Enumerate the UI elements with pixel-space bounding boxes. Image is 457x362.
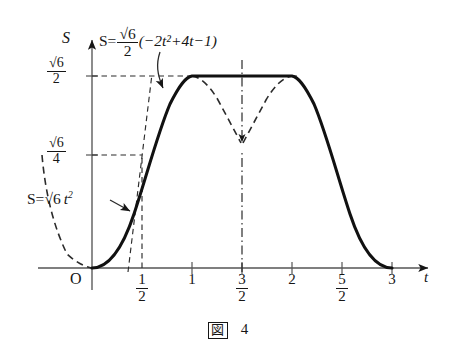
x-tick-label-5-2: 5 2	[332, 272, 352, 304]
y-tick-label-sqrt6-over-2: √6 2	[47, 56, 66, 86]
origin-label: O	[70, 271, 82, 287]
x-axis-label: t	[424, 270, 428, 285]
plot-canvas	[0, 0, 457, 362]
x-tick-label-3: 3	[382, 272, 402, 287]
x-tick-denominator: 2	[336, 288, 348, 305]
y-tick-label-sqrt6-over-4: √6 4	[47, 136, 66, 166]
dashed-parabola-left-tail	[42, 155, 92, 268]
x-tick-numerator: 3	[236, 272, 248, 288]
annotation-parabola-equation: S= √6 2 (−2t²+4t−1)	[99, 26, 217, 59]
annotation-square-equation: S=√6t2	[27, 190, 73, 207]
x-tick-label-1-2: 1 2	[132, 272, 152, 304]
dashed-parabola-arc-2	[243, 76, 292, 143]
y-tick-numerator: √6	[47, 136, 66, 151]
y-tick-denominator: 2	[47, 71, 66, 87]
arrow-to-square-equation	[110, 200, 130, 211]
dashed-parabola-arc-1	[192, 76, 241, 143]
equation-lhs: S=	[99, 32, 116, 49]
equation-exponent: 2	[68, 189, 73, 200]
x-tick-label-1: 1	[182, 272, 202, 287]
x-tick-label-3-2: 3 2	[232, 272, 252, 304]
x-tick-label-2: 2	[282, 272, 302, 287]
figure-caption: 図 4	[0, 322, 457, 339]
caption-number: 4	[241, 321, 250, 337]
radical-sqrt6: √6	[44, 190, 60, 207]
coefficient-numerator: √6	[117, 26, 137, 42]
y-tick-denominator: 4	[47, 151, 66, 167]
x-tick-numerator: 1	[136, 272, 148, 288]
x-tick-denominator: 2	[136, 288, 148, 305]
x-tick-numerator: 5	[336, 272, 348, 288]
y-axis-label: S	[62, 30, 70, 46]
caption-box-glyph: 図	[208, 322, 228, 339]
coefficient-denominator: 2	[117, 42, 137, 59]
x-tick-denominator: 2	[236, 288, 248, 305]
figure-root: S t O √6 2 √6 4 1 2 1 3 2 2 5 2 3	[0, 0, 457, 362]
equation-rhs: (−2t²+4t−1)	[139, 32, 217, 49]
equation-lhs: S=	[27, 190, 44, 207]
y-tick-numerator: √6	[47, 56, 66, 71]
